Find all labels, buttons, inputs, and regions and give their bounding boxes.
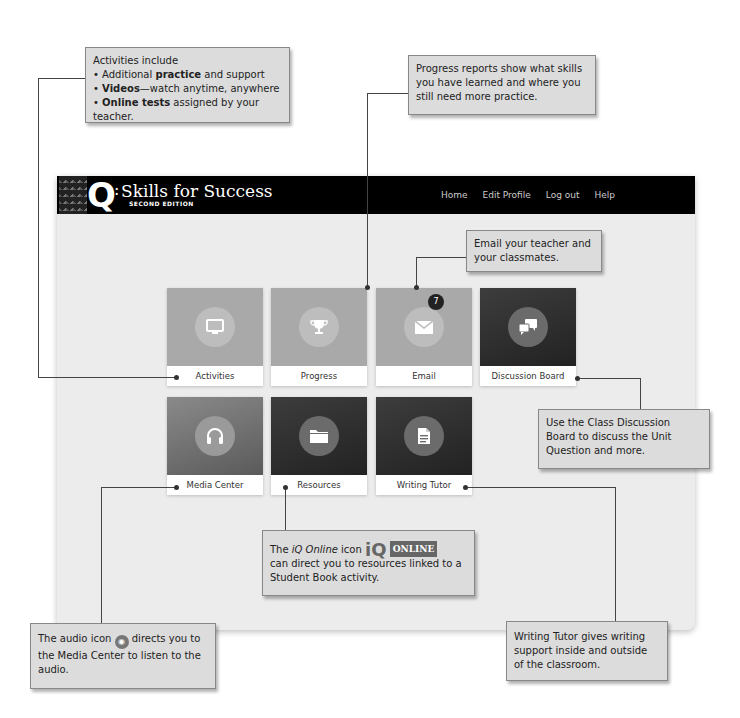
trophy-icon xyxy=(310,318,328,336)
envelope-icon xyxy=(415,321,433,334)
connector-line xyxy=(466,487,616,488)
logo-pattern-icon xyxy=(59,176,87,214)
iq-online-badge: ONLINE xyxy=(390,541,438,557)
nav-log-out[interactable]: Log out xyxy=(546,190,580,200)
logo-letter: Q xyxy=(87,176,116,214)
document-icon xyxy=(417,427,431,445)
chat-bubbles-icon xyxy=(518,318,538,336)
tile-label: Progress xyxy=(271,366,367,386)
connector-line xyxy=(101,487,102,624)
callout-progress: Progress reports show what skills you ha… xyxy=(408,55,596,115)
tile-label: Media Center xyxy=(167,475,263,495)
nav-home[interactable]: Home xyxy=(441,190,468,200)
audio-icon: ◉ xyxy=(115,635,129,649)
nav-help[interactable]: Help xyxy=(594,190,615,200)
logo-colon: : xyxy=(114,180,119,199)
tile-label: Email xyxy=(376,366,472,386)
callout-discussion: Use the Class Discussion Board to discus… xyxy=(538,409,710,469)
bullet-item: • Videos—watch anytime, anywhere xyxy=(93,82,282,96)
logo-subtitle: SECOND EDITION xyxy=(129,200,194,207)
callout-iq-online: The iQ Online icon iQ ONLINE can direct … xyxy=(262,530,475,596)
tile-resources[interactable]: Resources xyxy=(271,397,367,495)
headphones-icon xyxy=(206,427,224,445)
callout-audio: The audio icon ◉ directs you to the Medi… xyxy=(30,623,216,689)
tile-progress[interactable]: Progress xyxy=(271,288,367,386)
connector-dot xyxy=(463,485,468,490)
callout-activities: Activities include • Additional practice… xyxy=(85,47,290,123)
connector-dot xyxy=(575,376,580,381)
connector-line xyxy=(416,257,417,287)
connector-line xyxy=(38,78,39,378)
connector-line xyxy=(367,93,368,287)
tile-activities[interactable]: Activities xyxy=(167,288,263,386)
nav-edit-profile[interactable]: Edit Profile xyxy=(483,190,531,200)
connector-line xyxy=(578,378,640,379)
tile-label: Writing Tutor xyxy=(376,475,472,495)
connector-line xyxy=(615,487,616,622)
tile-media-center[interactable]: Media Center xyxy=(167,397,263,495)
tile-label: Activities xyxy=(167,366,263,386)
connector-line xyxy=(416,257,466,258)
connector-dot xyxy=(174,375,179,380)
tile-email[interactable]: 7 Email xyxy=(376,288,472,386)
connector-dot xyxy=(365,285,370,290)
connector-line xyxy=(38,377,176,378)
top-nav: Home Edit Profile Log out Help xyxy=(441,176,615,214)
connector-line xyxy=(640,378,641,410)
tile-label: Discussion Board xyxy=(480,366,576,386)
connector-line xyxy=(101,487,176,488)
logo-title: Skills for Success xyxy=(121,181,273,201)
folder-icon xyxy=(309,428,329,444)
monitor-icon xyxy=(206,319,224,335)
callout-email: Email your teacher and your classmates. xyxy=(466,230,602,272)
connector-dot xyxy=(283,485,288,490)
tile-writing-tutor[interactable]: Writing Tutor xyxy=(376,397,472,495)
unread-count-badge: 7 xyxy=(428,294,444,310)
callout-writing-tutor: Writing Tutor gives writing support insi… xyxy=(506,621,668,681)
bullet-item: • Additional practice and support xyxy=(93,68,282,82)
connector-line xyxy=(285,487,286,530)
iq-logo-icon: iQ xyxy=(365,543,386,557)
bullet-item: • Online tests assigned by your teacher. xyxy=(93,96,282,124)
tile-discussion-board[interactable]: Discussion Board xyxy=(480,288,576,386)
connector-line xyxy=(38,78,86,79)
connector-dot xyxy=(174,485,179,490)
connector-dot xyxy=(414,285,419,290)
app-header: Q : Skills for Success SECOND EDITION Ho… xyxy=(57,176,695,214)
